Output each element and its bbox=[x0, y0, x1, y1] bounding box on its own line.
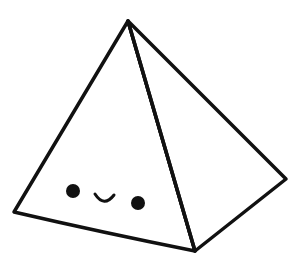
left-eye-icon bbox=[66, 184, 80, 198]
right-eye-icon bbox=[131, 196, 145, 210]
pyramid-drawing bbox=[0, 0, 306, 267]
pyramid-illustration bbox=[0, 0, 306, 267]
